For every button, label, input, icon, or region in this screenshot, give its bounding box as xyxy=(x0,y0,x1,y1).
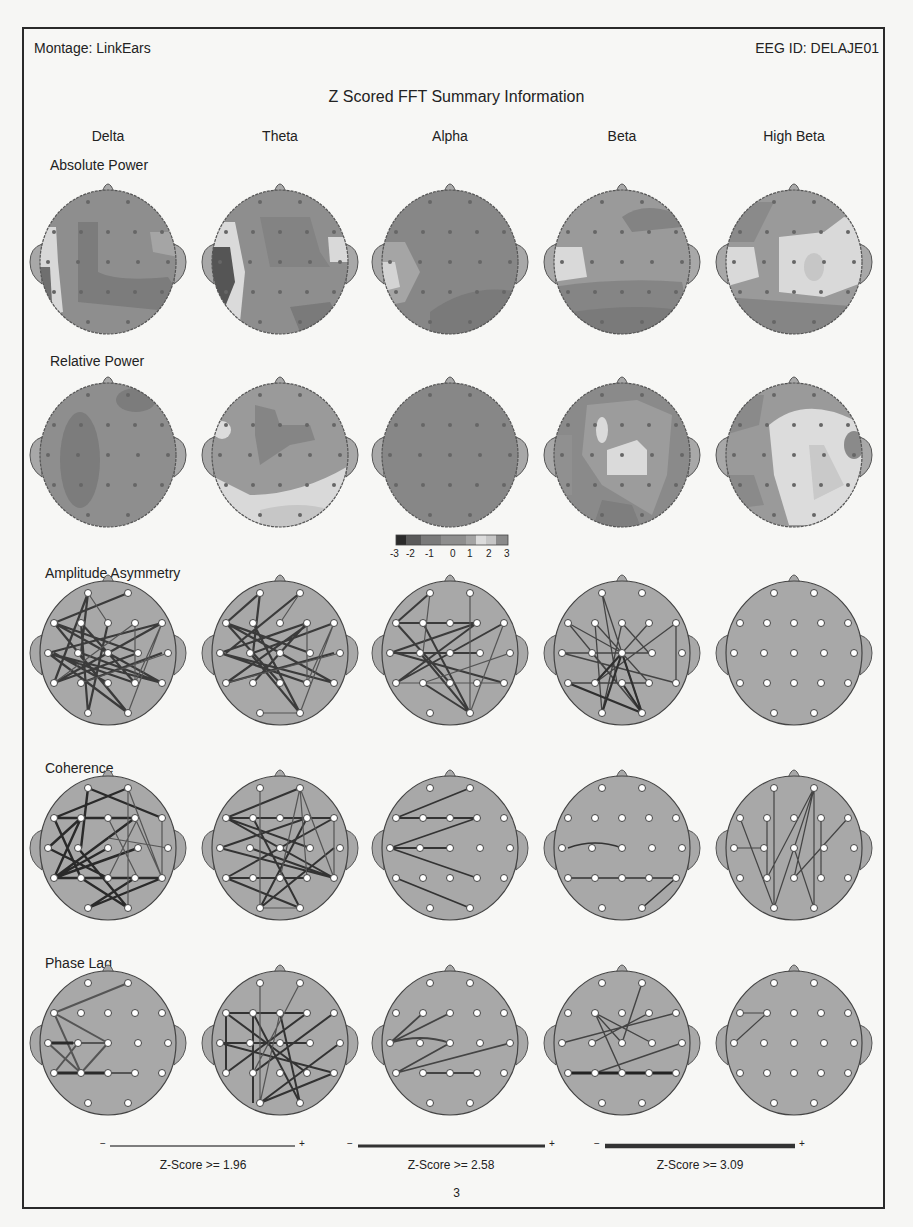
legend-plus-3: + xyxy=(799,1138,805,1149)
legend-label-3: Z-Score >= 3.09 xyxy=(600,1158,800,1172)
rel-power-delta-map xyxy=(30,377,186,530)
coherence-theta-map xyxy=(202,770,358,920)
rel-power-beta-map xyxy=(544,377,700,530)
rel-power-high-beta-map xyxy=(716,377,872,530)
rel-power-theta-map xyxy=(202,377,358,530)
abs-power-beta-map xyxy=(544,184,700,337)
colorbar-tick: 3 xyxy=(504,548,510,559)
amp-asym-high-beta-map xyxy=(716,575,872,725)
legend-minus-1: − xyxy=(100,1138,106,1149)
amp-asym-delta-map xyxy=(30,575,186,725)
legend-minus-2: − xyxy=(347,1138,353,1149)
amp-asym-alpha-map xyxy=(372,575,528,725)
colorbar-tick: 2 xyxy=(486,548,492,559)
abs-power-delta-map xyxy=(30,184,186,337)
legend-plus-1: + xyxy=(299,1138,305,1149)
page-number: 3 xyxy=(0,1186,913,1200)
legend-plus-2: + xyxy=(549,1138,555,1149)
phase-lag-alpha-map xyxy=(372,965,528,1115)
coherence-high-beta-map xyxy=(716,770,872,920)
colorbar-tick: -1 xyxy=(425,548,434,559)
phase-lag-delta-map xyxy=(30,965,186,1115)
legend-minus-3: − xyxy=(594,1138,600,1149)
legend-label-2: Z-Score >= 2.58 xyxy=(351,1158,551,1172)
phase-lag-beta-map xyxy=(544,965,700,1115)
topomap-grid xyxy=(0,0,913,1227)
coherence-alpha-map xyxy=(372,770,528,920)
coherence-delta-map xyxy=(30,770,186,920)
amp-asym-theta-map xyxy=(202,575,358,725)
amp-asym-beta-map xyxy=(544,575,700,725)
coherence-beta-map xyxy=(544,770,700,920)
abs-power-alpha-map xyxy=(372,184,528,337)
phase-lag-high-beta-map xyxy=(716,965,872,1115)
colorbar-tick: -2 xyxy=(406,548,415,559)
abs-power-high-beta-map xyxy=(716,184,872,337)
abs-power-theta-map xyxy=(202,184,358,337)
power-colorbar xyxy=(396,535,508,545)
legend-label-1: Z-Score >= 1.96 xyxy=(103,1158,303,1172)
rel-power-alpha-map xyxy=(372,377,528,530)
phase-lag-theta-map xyxy=(202,965,358,1115)
colorbar-tick: -3 xyxy=(390,548,399,559)
colorbar-tick: 0 xyxy=(450,548,456,559)
colorbar-tick: 1 xyxy=(467,548,473,559)
